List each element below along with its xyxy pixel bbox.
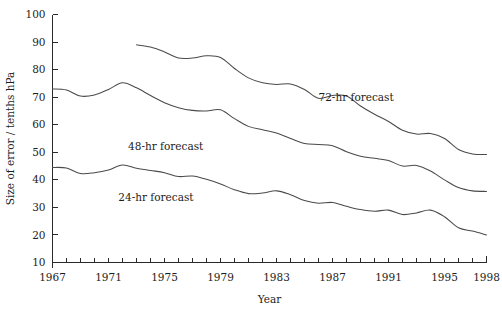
label-48hr: 48-hr forecast (128, 140, 204, 152)
y-axis-title: Size of error / tenths hPa (4, 72, 16, 206)
x-tick-label: 1987 (319, 271, 346, 283)
x-tick-label: 1995 (431, 271, 458, 283)
y-tick-label: 60 (32, 118, 45, 130)
x-tick-label: 1975 (151, 271, 178, 283)
x-tick-label: 1998 (473, 271, 500, 283)
y-tick-label: 50 (32, 146, 45, 158)
series-line-72-hr-forecast (137, 45, 487, 155)
y-tick-label: 80 (32, 63, 45, 75)
series-annotations: 72-hr forecast48-hr forecast24-hr foreca… (118, 91, 394, 203)
x-axis-title: Year (257, 293, 282, 305)
label-72hr: 72-hr forecast (319, 91, 395, 103)
chart-figure: 102030405060708090100 196719711975197919… (0, 0, 502, 312)
label-24hr: 24-hr forecast (118, 191, 194, 203)
y-tick-label: 100 (25, 8, 45, 20)
x-tick-label: 1983 (263, 271, 290, 283)
x-tick-label: 1967 (39, 271, 66, 283)
y-axis: 102030405060708090100 (25, 8, 57, 268)
x-tick-label: 1991 (375, 271, 402, 283)
x-tick-label: 1971 (95, 271, 122, 283)
y-tick-label: 70 (32, 91, 45, 103)
series-line-48-hr-forecast (53, 83, 487, 192)
y-tick-label: 40 (32, 173, 45, 185)
x-axis: 196719711975197919831987199119951998 (39, 256, 500, 283)
y-tick-label: 90 (32, 36, 45, 48)
series-lines (53, 45, 487, 235)
y-tick-label: 30 (32, 201, 45, 213)
x-tick-label: 1979 (207, 271, 234, 283)
y-tick-label: 20 (32, 229, 45, 241)
line-chart: 102030405060708090100 196719711975197919… (0, 0, 502, 312)
y-tick-label: 10 (32, 256, 45, 268)
